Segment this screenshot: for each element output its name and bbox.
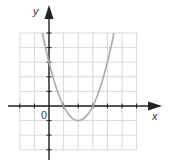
origin-label: 0 [41, 109, 47, 121]
x-axis-label: x [151, 110, 158, 122]
y-axis-arrow-icon [45, 5, 54, 19]
coordinate-plane: y x 0 [0, 0, 172, 168]
axes [8, 5, 162, 160]
y-axis-label: y [32, 5, 40, 17]
grid-lines [20, 33, 137, 150]
